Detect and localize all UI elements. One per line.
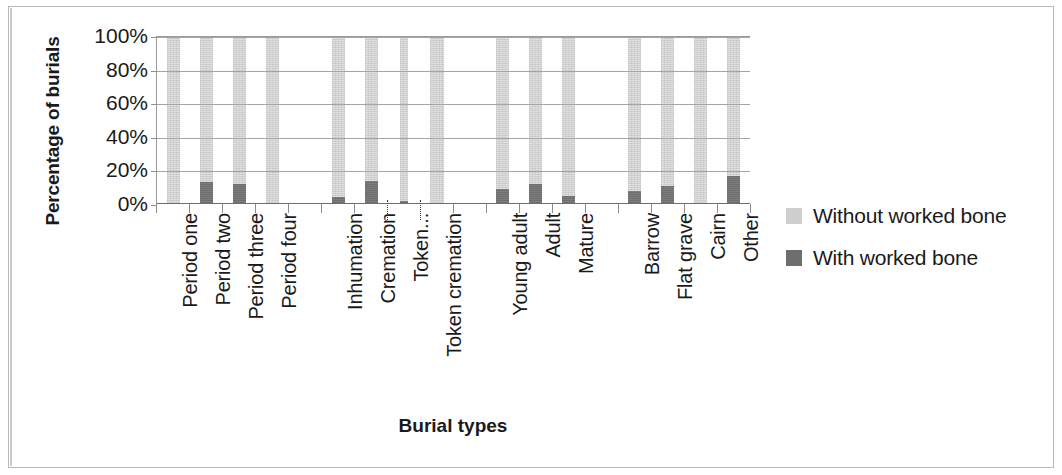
stacked-bar[interactable] — [661, 37, 674, 204]
x-axis-title: Burial types — [156, 415, 750, 437]
x-axis-category-label: Young adult — [510, 213, 530, 316]
x-axis-category-label: Token... — [411, 213, 431, 281]
y-axis-tick-label: 80% — [106, 59, 148, 80]
x-axis-category-label: Period two — [213, 213, 233, 306]
x-axis-category-label: Cremation — [378, 213, 398, 303]
bar-segment-with-worked-bone[interactable] — [200, 182, 213, 204]
chart-legend: Without worked boneWith worked bone — [786, 195, 1056, 279]
stacked-bar[interactable] — [496, 37, 509, 204]
stacked-bar[interactable] — [727, 37, 740, 204]
stacked-bar[interactable] — [562, 37, 575, 204]
bar-slot — [717, 37, 750, 204]
stacked-bar[interactable] — [529, 37, 542, 204]
bar-segment-without-worked-bone[interactable] — [628, 37, 641, 191]
gridline — [157, 171, 750, 172]
y-axis-tick-mark — [151, 71, 157, 72]
gridline — [157, 71, 750, 72]
bar-segment-without-worked-bone[interactable] — [694, 37, 707, 204]
bar-slot — [651, 37, 684, 204]
y-axis-title: Percentage of burials — [42, 16, 64, 246]
legend-label: Without worked bone — [813, 204, 1006, 228]
bar-segment-without-worked-bone[interactable] — [266, 37, 279, 204]
x-axis-category-label: Period four — [279, 213, 299, 309]
stacked-bar[interactable] — [694, 37, 707, 204]
x-axis-category-label: Adult — [543, 213, 563, 258]
x-axis-category-label: Period three — [246, 213, 266, 320]
y-axis-tick-label: 0% — [118, 193, 148, 214]
light-grey-swatch — [786, 208, 802, 224]
bar-segment-without-worked-bone[interactable] — [430, 37, 443, 204]
bar-slot — [421, 37, 454, 204]
y-axis-tick-mark — [151, 104, 157, 105]
bar-segment-without-worked-bone[interactable] — [365, 37, 378, 181]
bar-segment-with-worked-bone[interactable] — [365, 181, 378, 204]
y-axis-tick-label: 20% — [106, 159, 148, 180]
y-axis-tick-mark — [151, 37, 157, 38]
bar-slot-spacer — [453, 37, 486, 204]
bar-slot — [190, 37, 223, 204]
bar-segment-with-worked-bone[interactable] — [661, 186, 674, 204]
bar-slot — [618, 37, 651, 204]
x-axis-category-label: Token cremation — [444, 213, 464, 357]
y-axis-tick-labels: 100%80%60%40%20%0% — [66, 26, 148, 216]
plot-area — [156, 36, 750, 204]
stacked-bar[interactable] — [628, 37, 641, 204]
bar-segment-without-worked-bone[interactable] — [200, 37, 213, 182]
stacked-bar[interactable] — [167, 37, 180, 204]
bar-segment-without-worked-bone[interactable] — [727, 37, 740, 176]
bar-segment-with-worked-bone[interactable] — [628, 191, 641, 204]
bar-slot — [322, 37, 355, 204]
bar-slot — [388, 37, 421, 204]
bar-segment-without-worked-bone[interactable] — [233, 37, 246, 184]
bar-slot — [552, 37, 585, 204]
x-axis-tick-mark — [354, 204, 355, 213]
x-axis-tick-mark — [585, 204, 586, 213]
x-axis-tick-mark — [288, 204, 289, 213]
legend-label: With worked bone — [813, 246, 978, 270]
dark-grey-swatch — [786, 250, 802, 266]
stacked-bar[interactable] — [365, 37, 378, 204]
x-axis-tick-mark — [684, 204, 685, 213]
x-axis-category-label: Inhumation — [345, 213, 365, 310]
bar-series-container — [157, 37, 750, 204]
gridline — [157, 104, 750, 105]
y-axis-tick-label: 40% — [106, 126, 148, 147]
bar-segment-without-worked-bone[interactable] — [167, 37, 180, 204]
bar-segment-with-worked-bone[interactable] — [496, 189, 509, 204]
stacked-bar[interactable] — [400, 37, 409, 204]
x-axis-category-label: Cairn — [708, 213, 728, 260]
x-axis-tick-mark — [189, 204, 190, 213]
x-axis-tick-mark — [651, 204, 652, 213]
legend-item[interactable]: With worked bone — [786, 237, 1056, 279]
y-axis-tick-mark — [151, 138, 157, 139]
x-axis-category-label: Mature — [576, 213, 596, 274]
bar-slot-spacer — [585, 37, 618, 204]
bar-segment-without-worked-bone[interactable] — [332, 37, 345, 197]
gridline — [157, 37, 750, 38]
stacked-bar[interactable] — [266, 37, 279, 204]
x-axis-category-label: Barrow — [642, 213, 662, 275]
x-axis-tick-mark — [321, 204, 322, 213]
stacked-bar[interactable] — [430, 37, 443, 204]
stacked-bar[interactable] — [200, 37, 213, 204]
bar-segment-with-worked-bone[interactable] — [233, 184, 246, 204]
bar-segment-with-worked-bone[interactable] — [529, 184, 542, 204]
bar-segment-without-worked-bone[interactable] — [529, 37, 542, 184]
stacked-bar[interactable] — [332, 37, 345, 204]
y-axis-tick-label: 100% — [94, 25, 148, 46]
stacked-bar[interactable] — [233, 37, 246, 204]
y-axis-tick-mark — [151, 171, 157, 172]
bar-segment-without-worked-bone[interactable] — [496, 37, 509, 189]
y-axis-tick-label: 60% — [106, 92, 148, 113]
x-axis-category-label: Flat grave — [675, 213, 695, 300]
x-axis-tick-mark — [486, 204, 487, 213]
x-axis-category-labels: Period onePeriod twoPeriod threePeriod f… — [156, 213, 750, 398]
bar-slot-spacer — [289, 37, 322, 204]
bar-slot — [355, 37, 388, 204]
x-axis-tick-mark — [156, 204, 157, 213]
bar-segment-without-worked-bone[interactable] — [400, 37, 409, 201]
x-axis-category-label: Period one — [180, 213, 200, 308]
bar-segment-with-worked-bone[interactable] — [727, 176, 740, 204]
bar-segment-without-worked-bone[interactable] — [661, 37, 674, 186]
legend-item[interactable]: Without worked bone — [786, 195, 1056, 237]
